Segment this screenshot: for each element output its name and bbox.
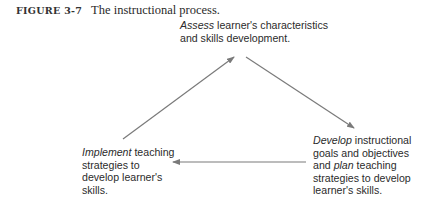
implement-line1: teaching bbox=[131, 146, 174, 158]
arrow-implement-to-assess bbox=[123, 57, 234, 139]
implement-line2: strategies to bbox=[82, 159, 192, 172]
implement-line3: develop learner's bbox=[82, 171, 192, 184]
plan-verb: plan bbox=[334, 159, 354, 171]
node-implement: Implement teaching strategies to develop… bbox=[82, 146, 192, 196]
implement-line4: skills. bbox=[82, 184, 192, 197]
node-develop: Develop instructional goals and objectiv… bbox=[313, 134, 431, 197]
develop-line2: goals and objectives bbox=[313, 147, 431, 160]
develop-line3-rest: teaching bbox=[354, 159, 397, 171]
arrow-assess-to-develop bbox=[246, 57, 354, 128]
node-assess: Assess learner's characteristics and ski… bbox=[180, 19, 360, 44]
develop-line4: strategies to develop bbox=[313, 172, 431, 185]
assess-line1: learner's characteristics bbox=[214, 19, 328, 31]
assess-line2: and skills development. bbox=[180, 32, 360, 45]
develop-verb: Develop bbox=[313, 134, 352, 146]
develop-line3-pre: and bbox=[313, 159, 334, 171]
assess-verb: Assess bbox=[180, 19, 214, 31]
implement-verb: Implement bbox=[82, 146, 131, 158]
develop-line1: instructional bbox=[352, 134, 411, 146]
develop-line5: learner's skills. bbox=[313, 184, 431, 197]
